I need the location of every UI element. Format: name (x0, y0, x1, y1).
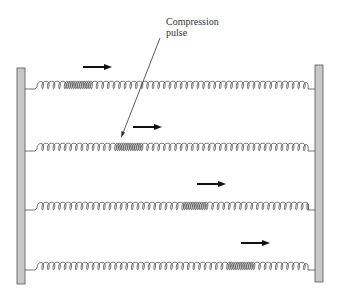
pointer-line (123, 38, 160, 133)
annotation-label: Compression pulse (166, 16, 219, 38)
spring-coil (25, 143, 315, 151)
left-wall (17, 68, 25, 284)
right-arrow-icon (262, 240, 270, 246)
spring-row-3 (25, 181, 315, 210)
right-arrow-icon (104, 64, 112, 70)
spring-row-1 (25, 64, 315, 89)
right-arrow-icon (154, 124, 162, 130)
spring-coil (25, 81, 315, 89)
spring-row-4 (25, 240, 315, 270)
spring-row-2 (25, 124, 315, 151)
right-arrow-icon (218, 181, 226, 187)
spring-coil (25, 202, 315, 210)
annotation-line1: Compression (166, 16, 219, 27)
pointer-arrowhead (121, 131, 125, 138)
right-wall (315, 65, 323, 282)
spring-diagram (0, 0, 341, 294)
annotation-line2: pulse (166, 27, 219, 38)
spring-coil (25, 262, 315, 270)
